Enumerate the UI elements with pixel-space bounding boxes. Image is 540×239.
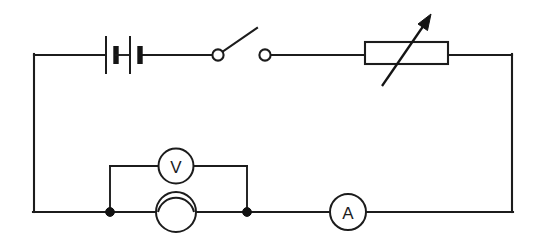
- outer-loop-wires: [33, 54, 513, 212]
- voltmeter-label: V: [170, 158, 182, 177]
- variable-resistor-symbol[interactable]: [365, 14, 448, 86]
- voltmeter-symbol[interactable]: V: [159, 149, 194, 184]
- switch-terminal-right[interactable]: [259, 49, 270, 60]
- circuit-diagram-svg: V A: [0, 0, 540, 239]
- ammeter-label: A: [342, 204, 354, 223]
- lamp-symbol[interactable]: [156, 192, 196, 232]
- circuit-diagram-canvas: V A: [0, 0, 540, 239]
- resistor-body[interactable]: [365, 42, 448, 64]
- switch-symbol[interactable]: [212, 28, 270, 61]
- ammeter-symbol[interactable]: A: [330, 194, 366, 230]
- junction-dot-left: [106, 208, 115, 217]
- battery-symbol: [106, 36, 140, 74]
- switch-lever[interactable]: [222, 28, 257, 52]
- switch-terminal-left[interactable]: [212, 49, 223, 60]
- junction-dot-right: [243, 208, 252, 217]
- resistor-arrow-head: [418, 14, 431, 31]
